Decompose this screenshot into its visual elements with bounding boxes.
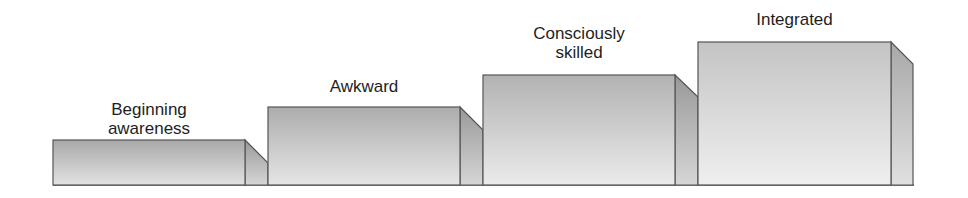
step-4-side xyxy=(891,42,913,185)
step-1 xyxy=(53,140,268,185)
step-2-label: Awkward xyxy=(268,77,460,96)
step-1-label: Beginning awareness xyxy=(53,100,245,138)
step-3-front xyxy=(483,75,675,185)
step-3 xyxy=(483,75,698,185)
step-4-front xyxy=(698,42,891,185)
step-1-side xyxy=(245,140,268,185)
step-4-label: Integrated xyxy=(698,10,891,29)
step-3-side xyxy=(675,75,698,185)
step-2 xyxy=(268,107,483,185)
step-2-side xyxy=(460,107,483,185)
step-1-front xyxy=(53,140,245,185)
step-4 xyxy=(698,42,913,185)
step-3-label: Consciously skilled xyxy=(483,24,675,62)
step-2-front xyxy=(268,107,460,185)
